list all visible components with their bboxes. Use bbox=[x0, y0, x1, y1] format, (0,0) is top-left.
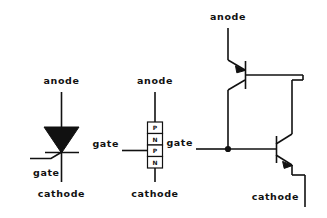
scr-schematic-symbol: anode gate cathode bbox=[30, 75, 85, 199]
pnpn-layer-label-3: P bbox=[153, 147, 158, 154]
scr-gate-lead bbox=[30, 153, 61, 159]
figure-canvas: anode gate cathode P N P N bbox=[0, 0, 327, 218]
pnp-collector-lead bbox=[228, 80, 245, 90]
scr-cathode-label: cathode bbox=[38, 188, 85, 199]
scr-diagram-svg: anode gate cathode P N P N bbox=[0, 0, 327, 218]
npn-transistor bbox=[276, 134, 293, 168]
scr-anode-label: anode bbox=[44, 75, 80, 86]
two-transistor-equivalent-circuit: anode gate cathode bbox=[166, 11, 305, 207]
pnpn-layer-stack: P N P N bbox=[148, 122, 163, 168]
pnpn-anode-label: anode bbox=[137, 75, 173, 86]
pnpn-gate-label: gate bbox=[92, 138, 119, 149]
scr-triangle bbox=[44, 127, 79, 153]
equiv-gate-label: gate bbox=[166, 137, 193, 148]
pnpn-layer-label-2: N bbox=[152, 136, 157, 143]
equiv-cathode-label: cathode bbox=[252, 191, 299, 202]
pnpn-layer-label-4: N bbox=[152, 159, 157, 166]
npn-collector-lead bbox=[276, 134, 292, 144]
pnpn-layer-label-1: P bbox=[153, 124, 158, 131]
equiv-anode-label: anode bbox=[210, 11, 246, 22]
pnpn-cathode-label: cathode bbox=[131, 188, 178, 199]
scr-gate-label: gate bbox=[33, 167, 60, 178]
